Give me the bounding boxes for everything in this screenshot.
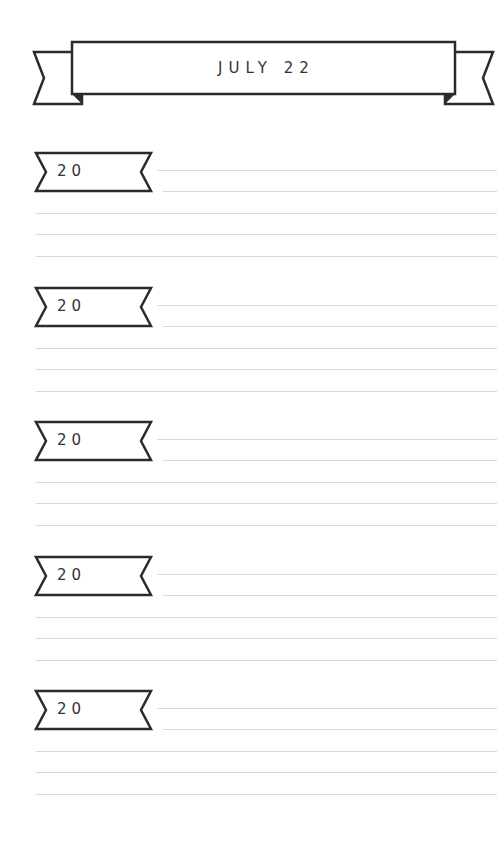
- year-tag: 20: [34, 420, 154, 462]
- ribbon-tag-icon: [34, 286, 154, 328]
- writing-line[interactable]: [157, 439, 497, 440]
- year-tag: 20: [34, 689, 154, 731]
- writing-line[interactable]: [36, 482, 497, 483]
- writing-line[interactable]: [157, 305, 497, 306]
- writing-line[interactable]: [163, 191, 497, 192]
- writing-line[interactable]: [36, 638, 497, 639]
- year-tag: 20: [34, 555, 154, 597]
- writing-line[interactable]: [36, 794, 497, 795]
- year-entry-section: 20: [0, 420, 504, 554]
- writing-line[interactable]: [157, 170, 497, 171]
- writing-line[interactable]: [36, 391, 497, 392]
- writing-line[interactable]: [36, 751, 497, 752]
- writing-line[interactable]: [163, 326, 497, 327]
- year-label: 20: [57, 297, 86, 315]
- year-entry-section: 20: [0, 555, 504, 689]
- writing-line[interactable]: [36, 213, 497, 214]
- writing-line[interactable]: [36, 525, 497, 526]
- writing-line[interactable]: [36, 772, 497, 773]
- year-tag: 20: [34, 151, 154, 193]
- ribbon-tag-icon: [34, 420, 154, 462]
- writing-line[interactable]: [36, 256, 497, 257]
- writing-line[interactable]: [36, 234, 497, 235]
- year-entry-section: 20: [0, 689, 504, 823]
- writing-line[interactable]: [36, 503, 497, 504]
- year-label: 20: [57, 700, 86, 718]
- date-banner: JULY 22: [0, 0, 504, 120]
- page-title: JULY 22: [72, 42, 455, 94]
- writing-line[interactable]: [163, 729, 497, 730]
- year-label: 20: [57, 431, 86, 449]
- ribbon-tag-icon: [34, 555, 154, 597]
- writing-line[interactable]: [36, 369, 497, 370]
- year-entry-section: 20: [0, 151, 504, 285]
- writing-line[interactable]: [36, 348, 497, 349]
- ribbon-tag-icon: [34, 151, 154, 193]
- writing-line[interactable]: [36, 660, 497, 661]
- writing-line[interactable]: [157, 574, 497, 575]
- writing-line[interactable]: [163, 595, 497, 596]
- ribbon-tag-icon: [34, 689, 154, 731]
- writing-line[interactable]: [36, 617, 497, 618]
- year-entry-section: 20: [0, 286, 504, 420]
- year-label: 20: [57, 566, 86, 584]
- writing-line[interactable]: [157, 708, 497, 709]
- writing-line[interactable]: [163, 460, 497, 461]
- year-tag: 20: [34, 286, 154, 328]
- year-label: 20: [57, 162, 86, 180]
